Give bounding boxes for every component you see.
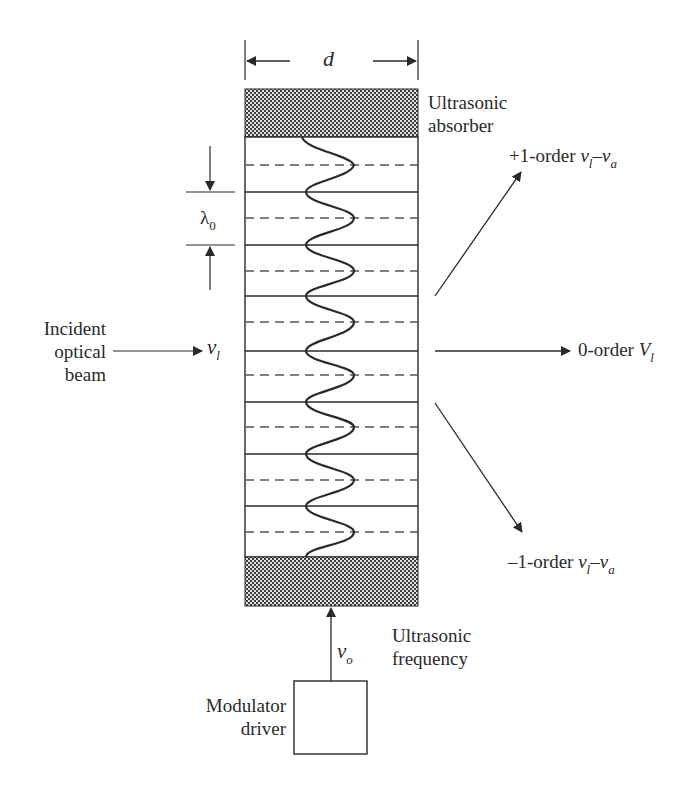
minus-first-order-label: –1-order νl–νa xyxy=(508,550,615,575)
ultrasonic-absorber-bottom xyxy=(245,557,418,606)
nu-symbol: ν xyxy=(207,335,216,359)
lambda-symbol: λ xyxy=(200,207,209,228)
minus-operator: – xyxy=(590,551,600,572)
nu-symbol: ν xyxy=(337,639,346,663)
ultrasonic-absorber-top xyxy=(245,89,418,137)
zero-order-label: 0-order Vl xyxy=(578,338,654,363)
plus-first-order-label: +1-order νl–νa xyxy=(509,144,617,169)
nu-symbol: ν xyxy=(578,551,586,572)
order-prefix: 0-order xyxy=(578,339,639,360)
driver-label-line1: Modulator xyxy=(180,694,286,717)
nu-symbol: ν xyxy=(600,551,608,572)
nu-subscript: l xyxy=(216,348,220,363)
incident-label-line1: Incident xyxy=(20,317,106,340)
order-prefix: +1-order xyxy=(509,145,580,166)
acousto-optic-diagram xyxy=(0,0,695,785)
plus-first-order-arrow xyxy=(435,172,521,296)
incident-label-line2: optical xyxy=(20,340,106,363)
v-subscript: l xyxy=(650,350,654,365)
width-label: d xyxy=(323,47,334,70)
absorber-label-line2: absorber xyxy=(428,114,507,137)
order-prefix: –1-order xyxy=(508,551,578,572)
modulator-driver-label: Modulator driver xyxy=(180,694,286,740)
drive-frequency-label: νo xyxy=(337,640,353,665)
incident-beam-label: Incident optical beam xyxy=(20,317,106,386)
nu-subscript: a xyxy=(608,562,615,577)
frequency-label-line1: Ultrasonic xyxy=(392,624,471,647)
absorber-label: Ultrasonic absorber xyxy=(428,91,507,137)
nu-subscript: a xyxy=(610,156,617,171)
wavelength-label: λ0 xyxy=(200,206,216,231)
modulator-driver-box xyxy=(294,681,367,754)
ultrasonic-frequency-label: Ultrasonic frequency xyxy=(392,624,471,670)
nu-subscript: l xyxy=(589,156,593,171)
v-symbol: V xyxy=(639,339,651,360)
minus-operator: – xyxy=(592,145,602,166)
absorber-label-line1: Ultrasonic xyxy=(428,91,507,114)
incident-label-line3: beam xyxy=(20,363,106,386)
nu-symbol: ν xyxy=(580,145,588,166)
minus-first-order-arrow xyxy=(435,403,522,532)
lambda-subscript: 0 xyxy=(209,218,216,233)
nu-subscript: l xyxy=(587,562,591,577)
driver-label-line2: driver xyxy=(180,717,286,740)
frequency-label-line2: frequency xyxy=(392,647,471,670)
incident-frequency-label: νl xyxy=(207,336,220,361)
nu-subscript: o xyxy=(346,652,353,667)
